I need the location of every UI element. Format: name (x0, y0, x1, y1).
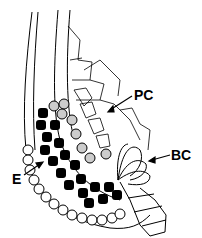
basal-fan (117, 144, 150, 185)
label-bc: BC (171, 148, 191, 162)
label-e: E (12, 172, 21, 186)
label-pc: PC (134, 88, 153, 102)
tissue-diagram (0, 0, 202, 238)
